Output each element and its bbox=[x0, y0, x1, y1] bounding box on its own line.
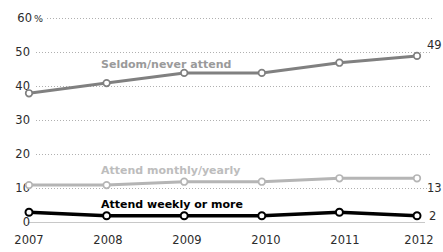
y-tick-20: 20 bbox=[15, 147, 30, 161]
y-tick-30: 30 bbox=[15, 113, 30, 127]
end-value-labels: 49 13 2 bbox=[427, 38, 442, 223]
data-point-marker[interactable] bbox=[414, 212, 421, 219]
x-tick-2009: 2009 bbox=[172, 233, 201, 247]
data-point-marker[interactable] bbox=[181, 212, 188, 219]
series-label-seldom-never-attend: Seldom/never attend bbox=[101, 58, 231, 71]
gridlines bbox=[28, 19, 432, 223]
chart-container: 60% 50 40 30 20 10 0 Seldom/never attend… bbox=[0, 0, 443, 252]
x-axis-labels: 2007 2008 2009 2010 2011 2012 bbox=[14, 233, 433, 247]
line-chart: 60% 50 40 30 20 10 0 Seldom/never attend… bbox=[0, 0, 443, 252]
x-tick-2011: 2011 bbox=[330, 233, 359, 247]
data-point-marker[interactable] bbox=[26, 209, 33, 216]
end-label-attend-weekly-or-more: 2 bbox=[429, 209, 436, 223]
data-series-layer bbox=[26, 53, 421, 220]
data-point-marker[interactable] bbox=[181, 178, 188, 185]
series-label-attend-weekly-or-more: Attend weekly or more bbox=[101, 198, 243, 211]
data-point-marker[interactable] bbox=[103, 80, 110, 87]
data-point-marker[interactable] bbox=[258, 212, 265, 219]
data-point-marker[interactable] bbox=[26, 90, 33, 97]
end-label-seldom-never-attend: 49 bbox=[427, 38, 442, 52]
data-point-marker[interactable] bbox=[103, 182, 110, 189]
x-tick-2012: 2012 bbox=[404, 233, 433, 247]
data-point-marker[interactable] bbox=[336, 209, 343, 216]
series-label-attend-monthly-yearly: Attend monthly/yearly bbox=[101, 164, 240, 177]
x-tick-2007: 2007 bbox=[14, 233, 43, 247]
data-point-marker[interactable] bbox=[336, 59, 343, 66]
data-point-marker[interactable] bbox=[259, 70, 266, 77]
y-tick-60: 60% bbox=[17, 11, 43, 25]
x-tick-2010: 2010 bbox=[251, 233, 280, 247]
data-point-marker[interactable] bbox=[414, 175, 421, 182]
data-point-marker[interactable] bbox=[103, 212, 110, 219]
end-label-attend-monthly-yearly: 13 bbox=[427, 181, 442, 195]
series-attend-monthly-yearly bbox=[26, 175, 421, 188]
data-point-marker[interactable] bbox=[414, 53, 421, 60]
data-point-marker[interactable] bbox=[259, 178, 266, 185]
series-line bbox=[29, 212, 417, 215]
y-tick-50: 50 bbox=[15, 45, 30, 59]
series-line bbox=[29, 178, 417, 185]
data-point-marker[interactable] bbox=[26, 182, 33, 189]
x-tick-2008: 2008 bbox=[93, 233, 122, 247]
y-axis-labels: 60% 50 40 30 20 10 0 bbox=[15, 11, 43, 229]
y-tick-0: 0 bbox=[23, 215, 30, 229]
data-point-marker[interactable] bbox=[336, 175, 343, 182]
